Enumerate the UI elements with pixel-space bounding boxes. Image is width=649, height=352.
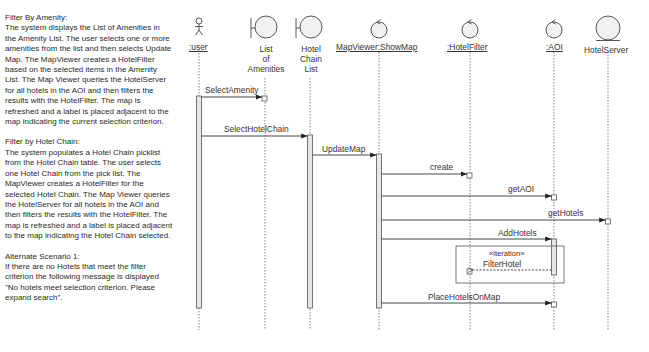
- activation-hotelfilter-filter: [467, 269, 472, 274]
- activation-aoi-addhotels: [552, 239, 557, 275]
- activation-amenities: [262, 96, 267, 101]
- activation-user: [197, 96, 202, 308]
- control-mapviewer-icon: [371, 20, 387, 39]
- msg-label-getaoi: getAOI: [508, 184, 534, 194]
- fragment-label-iteration: «iteration»: [489, 249, 524, 258]
- lifeline-label-mapviewer: MapViewer:ShowMap: [336, 42, 417, 52]
- activation-mapviewer: [377, 154, 382, 308]
- control-hotelfilter-icon: [462, 20, 478, 39]
- msg-label-placehotels: PlaceHotelsOnMap: [428, 292, 500, 302]
- lifelines: [199, 50, 608, 330]
- msg-label-filterhotel: FilterHotel: [483, 259, 521, 269]
- msg-label-update-map: UpdateMap: [322, 144, 365, 154]
- boundary-hotel-chain-list-icon: [296, 16, 322, 38]
- lifeline-label-user: :user: [189, 42, 208, 52]
- activation-aoi-place: [552, 302, 557, 307]
- msg-label-create: create: [430, 162, 453, 172]
- lifeline-label-hotelserver: HotelServer: [584, 45, 628, 55]
- msg-label-gethotels: getHotels: [548, 208, 583, 218]
- actor-user-icon: [195, 18, 203, 35]
- activation-aoi-getaoi: [552, 195, 557, 200]
- lifeline-label-amenities: List of Amenities: [240, 44, 292, 74]
- lifeline-label-aoi: :AOI: [546, 42, 563, 52]
- msg-label-select-hotel-chain: SelectHotelChain: [224, 124, 289, 134]
- msg-label-select-amenity: SelectAmenity: [205, 85, 259, 95]
- control-aoi-icon: [546, 20, 562, 39]
- lifeline-label-hotel-chain: Hotel Chain List: [291, 44, 331, 74]
- activation-chain: [308, 135, 313, 308]
- entity-hotelserver-icon: [596, 16, 620, 41]
- lifeline-label-hotelfilter: :HotelFilter: [447, 42, 488, 52]
- activation-hotelserver: [606, 219, 611, 224]
- boundary-amenity-list-icon: [251, 16, 277, 38]
- msg-label-addhotels: AddHotels: [498, 228, 537, 238]
- activation-hotelfilter-create: [467, 173, 472, 178]
